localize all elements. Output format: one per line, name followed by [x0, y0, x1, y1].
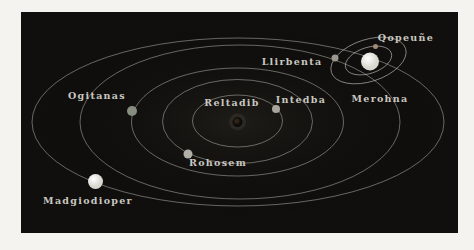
label-reltadib: Reltadib: [204, 97, 259, 108]
planet-intedba: [272, 105, 280, 113]
orbital-system-canvas: ReltadibIntedbaRohosemOgitanasLlirbentaM…: [0, 0, 474, 250]
label-madgiodioper: Madgiodioper: [43, 195, 133, 206]
label-ogitanas: Ogitanas: [68, 90, 126, 101]
planet-madgiodioper: [88, 174, 103, 189]
star-reltadib: [233, 118, 242, 127]
planet-llirbenta: [332, 55, 339, 62]
label-rohosem: Rohosem: [189, 157, 247, 168]
orbital-diagram: ReltadibIntedbaRohosemOgitanasLlirbentaM…: [0, 0, 474, 250]
label-llirbenta: Llirbenta: [262, 56, 323, 67]
label-merohna: Merohna: [352, 93, 409, 104]
planet-ogitanas: [127, 106, 137, 116]
label-qopeue: Qopeuñe: [378, 32, 434, 43]
moon-qopeue: [373, 44, 378, 49]
planet-merohna: [361, 53, 379, 71]
label-intedba: Intedba: [276, 94, 326, 105]
